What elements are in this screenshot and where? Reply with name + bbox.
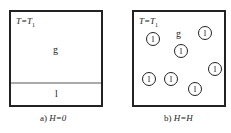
caption-b: b) H=H	[164, 113, 193, 123]
liquid-droplet: l	[142, 72, 156, 86]
liquid-phase-label-a: l	[55, 88, 58, 99]
liquid-droplet: l	[198, 26, 212, 40]
gas-phase-label-a: g	[53, 44, 58, 55]
temperature-label-a: T=T1	[16, 16, 35, 28]
liquid-droplet: l	[146, 32, 160, 46]
liquid-droplet: l	[174, 44, 188, 58]
liquid-droplet: l	[164, 72, 178, 86]
caption-a: a) H=0	[40, 113, 66, 123]
temperature-label-b: T=T1	[139, 16, 158, 28]
liquid-droplet: l	[188, 82, 202, 96]
panel-a-container: T=T1 g l	[9, 10, 103, 107]
gas-phase-label-b: g	[176, 28, 181, 39]
liquid-gas-interface	[11, 82, 101, 84]
liquid-droplet: l	[208, 62, 222, 76]
panel-b-container: T=T1 g l l l l l l l	[132, 10, 226, 107]
